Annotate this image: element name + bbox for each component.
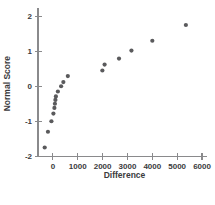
- y-tick-label: 1: [28, 47, 33, 56]
- x-axis-title: Difference: [104, 170, 146, 180]
- x-tick-label: 1000: [69, 162, 87, 171]
- data-points: [43, 23, 188, 150]
- x-axis-ticks: 0100020003000400050006000: [51, 153, 212, 171]
- data-point: [52, 106, 56, 110]
- data-point: [150, 39, 154, 43]
- data-point: [61, 80, 65, 84]
- data-point: [51, 111, 55, 115]
- chart-canvas: -2-1012 0100020003000400050006000 Differ…: [0, 0, 215, 205]
- scatter-chart: -2-1012 0100020003000400050006000 Differ…: [0, 0, 215, 205]
- y-axis-ticks: -2-1012: [25, 12, 42, 161]
- y-tick-label: -2: [25, 152, 33, 161]
- data-point: [184, 23, 188, 27]
- data-point: [129, 48, 133, 52]
- y-tick-label: 2: [28, 12, 33, 21]
- x-tick-label: 4000: [143, 162, 161, 171]
- data-point: [53, 102, 57, 106]
- data-point: [66, 74, 70, 78]
- x-tick-label: 6000: [193, 162, 211, 171]
- x-tick-label: 5000: [168, 162, 186, 171]
- y-tick-label: 0: [28, 82, 33, 91]
- data-point: [46, 130, 50, 134]
- data-point: [117, 57, 121, 61]
- data-point: [103, 62, 107, 66]
- data-point: [59, 84, 63, 88]
- data-point: [54, 94, 58, 98]
- data-point: [49, 119, 53, 123]
- x-tick-label: 0: [51, 162, 56, 171]
- data-point: [56, 89, 60, 93]
- y-axis-title: Normal Score: [2, 56, 12, 112]
- y-tick-label: -1: [25, 117, 33, 126]
- data-point: [100, 68, 104, 72]
- data-point: [43, 145, 47, 149]
